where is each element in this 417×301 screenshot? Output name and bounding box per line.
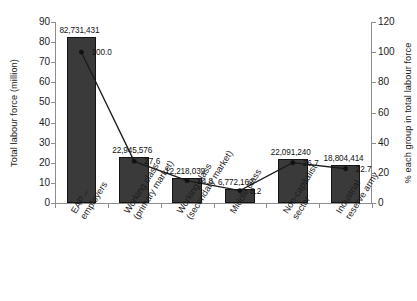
line-value-label: 100.0 bbox=[91, 48, 112, 57]
x-axis-tick-mark bbox=[372, 204, 373, 208]
bar-value-label: 22,091,240 bbox=[271, 148, 311, 157]
y-axis-left-title: Total labour force (million) bbox=[9, 33, 19, 193]
y-axis-left-tick-label: 70 bbox=[24, 57, 50, 67]
y-axis-right-tick-mark bbox=[372, 52, 376, 53]
y-axis-left-tick-label: 80 bbox=[24, 37, 50, 47]
y-axis-right-tick-mark bbox=[372, 22, 376, 23]
x-axis-category-labels: EAP –employersWorking class(primary mark… bbox=[55, 206, 372, 301]
y-axis-right-tick-mark bbox=[372, 82, 376, 83]
y-axis-right-tick-label: 40 bbox=[378, 138, 404, 148]
y-axis-right-tick-mark bbox=[372, 113, 376, 114]
y-axis-right-tick-label: 100 bbox=[378, 47, 404, 57]
y-axis-left-tick-label: 30 bbox=[24, 138, 50, 148]
chart-container: Total labour force (million) % each grou… bbox=[0, 0, 417, 301]
y-axis-left-tick-label: 60 bbox=[24, 77, 50, 87]
line-marker bbox=[185, 178, 190, 183]
y-axis-left-tick-label: 90 bbox=[24, 17, 50, 27]
bar-value-label: 22,945,576 bbox=[112, 146, 152, 155]
y-axis-left-tick-label: 10 bbox=[24, 178, 50, 188]
y-axis-left-tick-label: 20 bbox=[24, 158, 50, 168]
y-axis-right-tick-mark bbox=[372, 143, 376, 144]
y-axis-left-tick-label: 50 bbox=[24, 97, 50, 107]
line-marker bbox=[343, 166, 348, 171]
line-marker bbox=[79, 50, 84, 55]
line-marker bbox=[290, 160, 295, 165]
y-axis-left-tick-label: 40 bbox=[24, 118, 50, 128]
line-marker bbox=[132, 159, 137, 164]
y-axis-right-tick-label: 20 bbox=[378, 168, 404, 178]
bar-value-label: 18,804,414 bbox=[324, 154, 364, 163]
y-axis-right-tick-label: 60 bbox=[378, 108, 404, 118]
y-axis-left-tick-label: 0 bbox=[24, 198, 50, 208]
y-axis-right-title: % each group in total labour force bbox=[403, 23, 413, 203]
bar-value-label: 82,731,431 bbox=[59, 26, 99, 35]
y-axis-right-tick-label: 120 bbox=[378, 17, 404, 27]
y-axis-right-tick-label: 80 bbox=[378, 77, 404, 87]
y-axis-right-tick-label: 0 bbox=[378, 198, 404, 208]
